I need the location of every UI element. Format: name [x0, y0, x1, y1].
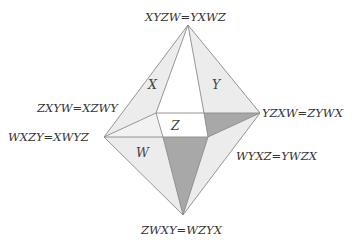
face-label-x: X	[147, 77, 158, 92]
vertex-label-lower-right: WYXZ=YWZX	[236, 149, 318, 163]
vertex-label-upper-left: ZXYW=XZWY	[36, 101, 119, 115]
polyhedron-diagram: XYZW=YXWZ ZXYW=XZWY WXZY=XWYZ YZXW=ZYWX …	[0, 0, 355, 246]
face-label-z: Z	[170, 118, 180, 133]
vertex-label-top: XYZW=YXWZ	[144, 10, 227, 24]
face-label-w: W	[136, 145, 150, 160]
vertex-label-left: WXZY=XWYZ	[8, 130, 90, 144]
vertex-label-bottom: ZWXY=WZYX	[140, 223, 223, 237]
vertex-label-right: YZXW=ZYWX	[262, 106, 344, 120]
